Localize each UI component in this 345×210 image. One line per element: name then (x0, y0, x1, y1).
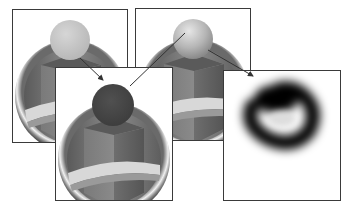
blur-map (224, 71, 341, 201)
sphere-dark (92, 84, 134, 126)
scene-render (56, 68, 173, 201)
sphere-light (50, 20, 90, 60)
panel-blurred-shadow (223, 70, 341, 201)
sphere-shaded (173, 19, 213, 59)
panel-dark-sphere (55, 67, 173, 201)
